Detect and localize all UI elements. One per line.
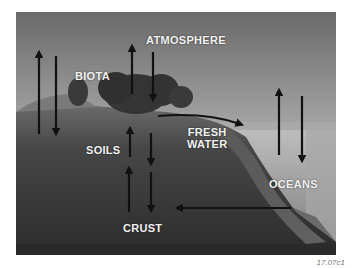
label-biota: BIOTA: [75, 70, 110, 82]
label-oceans: OCEANS: [269, 178, 318, 190]
scene-illustration: [16, 12, 336, 255]
carbon-cycle-diagram: ATMOSPHERE BIOTA SOILS FRESH WATER OCEAN…: [16, 12, 336, 255]
label-fresh-water: FRESH WATER: [187, 126, 227, 150]
label-atmosphere: ATMOSPHERE: [146, 34, 226, 46]
figure-caption: 17.07c1: [317, 258, 345, 267]
bottom-edge: [16, 244, 336, 255]
label-fresh-water-line1: FRESH: [187, 126, 227, 138]
label-fresh-water-line2: WATER: [187, 138, 227, 150]
label-soils: SOILS: [86, 144, 121, 156]
label-crust: CRUST: [123, 222, 162, 234]
